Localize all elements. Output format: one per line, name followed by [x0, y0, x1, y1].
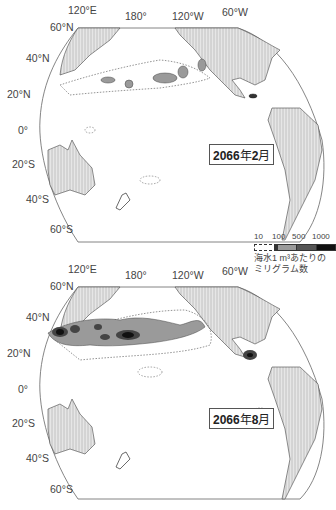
lat-label-20s: 20°S — [12, 158, 35, 170]
legend-colorbar — [254, 244, 336, 251]
map-plot-august — [0, 255, 336, 510]
lon-label-120e: 120°E — [68, 4, 97, 16]
legend-swatch-500 — [296, 244, 316, 251]
legend-swatch-100 — [277, 244, 297, 251]
lat-label-20n: 20°N — [7, 88, 30, 100]
title-kanji-year: 年 — [240, 413, 252, 427]
lat-label-40s: 40°S — [26, 193, 49, 205]
legend-ticks: 10 100 500 1000 — [254, 232, 336, 242]
legend-tick: 500 — [292, 232, 305, 241]
title-kanji-month: 月 — [258, 413, 270, 427]
title-year: 2066 — [213, 149, 240, 163]
title-year: 2066 — [213, 413, 240, 427]
lat-label-40n: 40°N — [26, 52, 49, 64]
lon-label-120e: 120°E — [68, 263, 97, 275]
legend-swatch-10 — [254, 244, 277, 251]
map-title-badge: 2066年8月 — [209, 408, 274, 429]
lat-label-60s: 60°S — [50, 223, 73, 235]
title-kanji-month: 月 — [258, 149, 270, 163]
lat-label-20n: 20°N — [7, 347, 30, 359]
legend-tick: 1000 — [312, 232, 330, 241]
map-plot-february — [0, 0, 336, 255]
lat-label-40n: 40°N — [26, 311, 49, 323]
lon-label-120w: 120°W — [172, 10, 204, 22]
map-panel-august: 120°E 180° 120°W 60°W 60°N 40°N 20°N 0° … — [0, 255, 336, 510]
map-panel-february: 120°E 180° 120°W 60°W 60°N 40°N 20°N 0° … — [0, 0, 336, 255]
lat-label-60n: 60°N — [50, 21, 73, 33]
lat-label-0: 0° — [18, 124, 28, 136]
lat-label-40s: 40°S — [26, 452, 49, 464]
legend-tick: 100 — [272, 232, 285, 241]
legend-swatch-1000 — [316, 244, 336, 251]
lat-label-60n: 60°N — [50, 280, 73, 292]
lat-label-0: 0° — [18, 383, 28, 395]
lat-label-20s: 20°S — [12, 417, 35, 429]
lat-label-60s: 60°S — [50, 483, 73, 495]
lon-label-60w: 60°W — [222, 265, 248, 277]
lon-label-180: 180° — [125, 269, 147, 281]
legend-tick: 10 — [254, 232, 263, 241]
lon-label-60w: 60°W — [222, 6, 248, 18]
lon-label-120w: 120°W — [172, 269, 204, 281]
title-kanji-year: 年 — [240, 149, 252, 163]
map-title-badge: 2066年2月 — [209, 144, 274, 165]
lon-label-180: 180° — [125, 10, 147, 22]
